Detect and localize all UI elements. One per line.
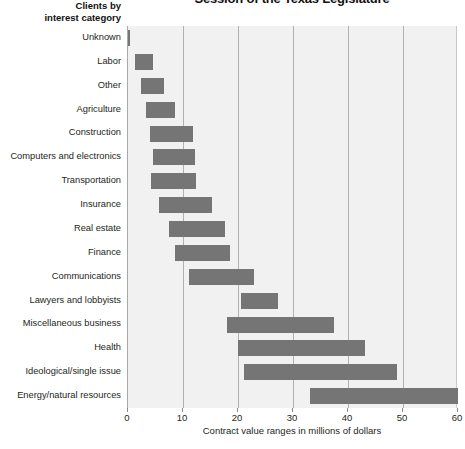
x-tick-label: 50 bbox=[387, 412, 417, 423]
y-tick-label: Health bbox=[0, 342, 121, 353]
x-tick-label: 20 bbox=[222, 412, 252, 423]
y-tick-label: Miscellaneous business bbox=[0, 318, 121, 329]
y-tick-label: Energy/natural resources bbox=[0, 390, 121, 401]
bar-lawyers-and-lobbyists bbox=[241, 293, 278, 309]
x-tick-label: 0 bbox=[112, 412, 142, 423]
y-tick-label: Finance bbox=[0, 247, 121, 258]
y-tick-label: Other bbox=[0, 80, 121, 91]
bar-real-estate bbox=[169, 221, 225, 237]
bar-row bbox=[128, 265, 456, 289]
chart-title: Session of the Texas Legislature bbox=[127, 0, 457, 6]
bar-row bbox=[128, 241, 456, 265]
bar-row bbox=[128, 169, 456, 193]
x-tick-label: 30 bbox=[277, 412, 307, 423]
bar-construction bbox=[150, 126, 193, 142]
bar-agriculture bbox=[146, 102, 175, 118]
bar-row bbox=[128, 122, 456, 146]
bar-row bbox=[128, 289, 456, 313]
plot-area bbox=[127, 26, 457, 408]
bar-row bbox=[128, 360, 456, 384]
y-tick-label: Insurance bbox=[0, 199, 121, 210]
bar-labor bbox=[135, 54, 153, 70]
bar-row bbox=[128, 384, 456, 408]
y-tick-label: Computers and electronics bbox=[0, 151, 121, 162]
x-tick-label: 10 bbox=[167, 412, 197, 423]
x-tick-label: 60 bbox=[442, 412, 465, 423]
bar-row bbox=[128, 313, 456, 337]
bar-health bbox=[238, 340, 365, 356]
y-tick-label: Communications bbox=[0, 271, 121, 282]
bar-ideological-single-issue bbox=[244, 364, 397, 380]
bar-other bbox=[141, 78, 164, 94]
y-tick-label: Agriculture bbox=[0, 104, 121, 115]
y-axis-title-line-1: Clients by bbox=[0, 0, 121, 12]
bar-energy-natural-resources bbox=[310, 388, 458, 404]
bar-row bbox=[128, 336, 456, 360]
bar-miscellaneous-business bbox=[227, 317, 334, 333]
y-tick-label: Labor bbox=[0, 56, 121, 67]
y-tick-label: Construction bbox=[0, 127, 121, 138]
y-tick-label: Lawyers and lobbyists bbox=[0, 295, 121, 306]
y-tick-label: Ideological/single issue bbox=[0, 366, 121, 377]
y-tick-label: Unknown bbox=[0, 32, 121, 43]
y-tick-label: Transportation bbox=[0, 175, 121, 186]
bar-row bbox=[128, 26, 456, 50]
bar-row bbox=[128, 98, 456, 122]
x-axis-title: Contract value ranges in millions of dol… bbox=[127, 425, 457, 436]
y-axis-title-line-2: interest category bbox=[0, 12, 121, 24]
x-axis-ticks: 0102030405060 bbox=[0, 408, 465, 424]
bar-row bbox=[128, 50, 456, 74]
bar-row bbox=[128, 145, 456, 169]
bar-row bbox=[128, 193, 456, 217]
bar-finance bbox=[175, 245, 230, 261]
x-tick-label: 40 bbox=[332, 412, 362, 423]
bar-transportation bbox=[151, 173, 196, 189]
y-axis-title: Clients by interest category bbox=[0, 0, 121, 24]
bar-unknown bbox=[128, 30, 130, 46]
bar-computers-and-electronics bbox=[153, 149, 195, 165]
bar-row bbox=[128, 217, 456, 241]
bar-communications bbox=[189, 269, 254, 285]
y-tick-label: Real estate bbox=[0, 223, 121, 234]
bar-row bbox=[128, 74, 456, 98]
bar-insurance bbox=[159, 197, 212, 213]
